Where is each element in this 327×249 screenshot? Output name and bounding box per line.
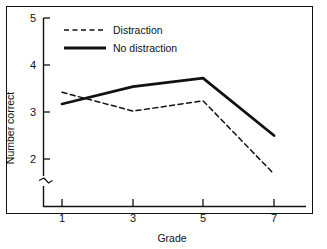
y-axis-title: Number correct	[4, 92, 16, 164]
legend-label-no-distraction: No distraction	[113, 42, 177, 54]
data-series-layer	[62, 78, 274, 174]
x-axis: 1 3 5 7 Grade	[44, 199, 307, 244]
legend: Distraction No distraction	[64, 24, 177, 54]
figure-container: 5 4 3 2 Number correct 1 3 5 7 Grade Dis…	[0, 0, 327, 249]
x-tick-label-5: 5	[200, 212, 206, 224]
series-line-no-distraction	[62, 78, 274, 135]
legend-label-distraction: Distraction	[113, 24, 163, 36]
line-chart: 5 4 3 2 Number correct 1 3 5 7 Grade Dis…	[0, 0, 327, 249]
x-axis-title: Grade	[157, 232, 186, 244]
y-axis: 5 4 3 2 Number correct	[4, 12, 53, 207]
y-tick-label-3: 3	[30, 106, 36, 118]
series-line-distraction	[62, 92, 274, 174]
y-axis-break-icon	[39, 178, 53, 183]
y-tick-label-2: 2	[30, 153, 36, 165]
y-tick-label-4: 4	[30, 59, 36, 71]
y-tick-label-5: 5	[30, 12, 36, 24]
x-tick-label-1: 1	[59, 212, 65, 224]
x-tick-label-3: 3	[130, 212, 136, 224]
x-tick-label-7: 7	[271, 212, 277, 224]
